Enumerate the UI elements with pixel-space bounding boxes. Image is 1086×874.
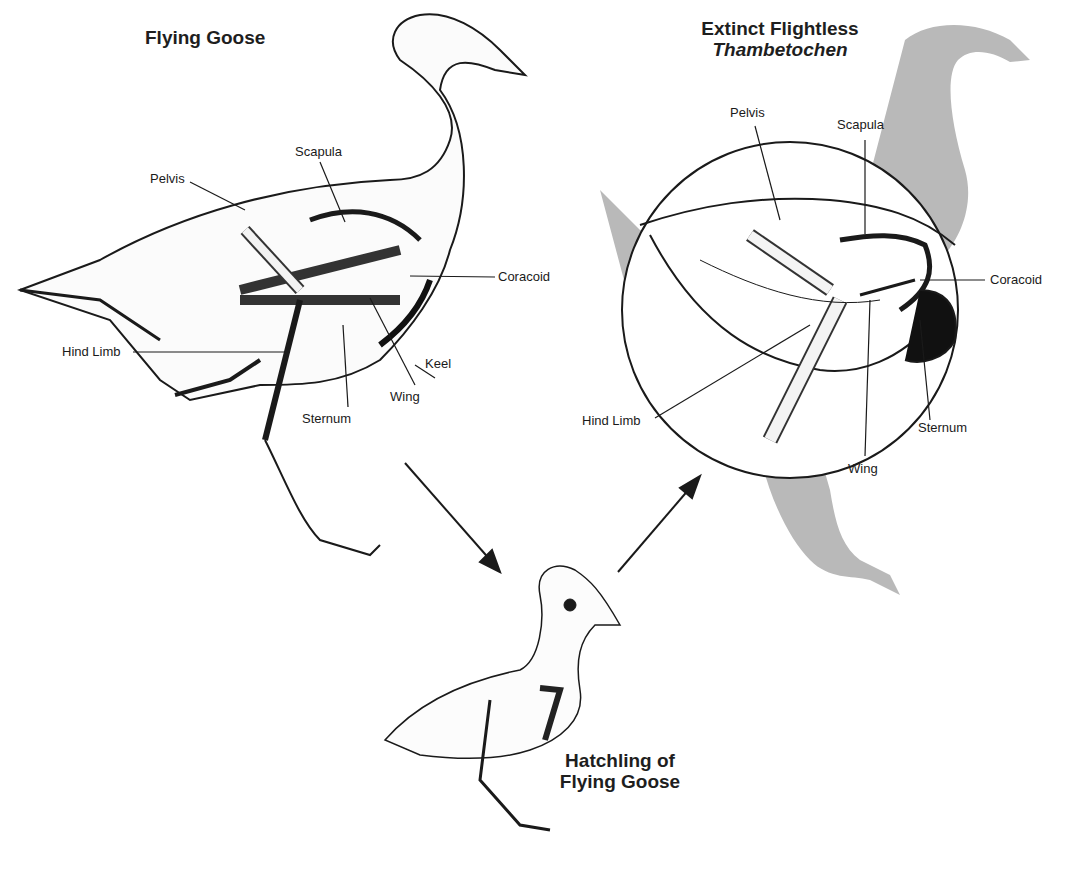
arrow-to-hatchling xyxy=(405,463,492,562)
label-flying-sternum: Sternum xyxy=(302,412,351,426)
label-flying-keel: Keel xyxy=(425,357,451,371)
thambetochen-title-line1: Extinct Flightless xyxy=(701,18,858,39)
label-extinct-scapula: Scapula xyxy=(837,118,884,132)
magnification-circle xyxy=(622,142,958,478)
label-extinct-pelvis: Pelvis xyxy=(730,106,765,120)
diagram-artwork xyxy=(0,0,1086,874)
flying-goose-illustration xyxy=(20,14,525,555)
label-extinct-hind-limb: Hind Limb xyxy=(582,414,641,428)
arrow-head-down-icon xyxy=(480,550,500,572)
arrow-to-thambetochen xyxy=(618,488,690,572)
label-extinct-wing: Wing xyxy=(848,462,878,476)
label-flying-wing: Wing xyxy=(390,390,420,404)
label-extinct-coracoid: Coracoid xyxy=(990,273,1042,287)
label-flying-pelvis: Pelvis xyxy=(150,172,185,186)
label-flying-coracoid: Coracoid xyxy=(498,270,550,284)
arrows xyxy=(405,463,700,572)
thambetochen-title-line2: Thambetochen xyxy=(690,39,870,60)
thambetochen-title: Extinct Flightless Thambetochen xyxy=(690,18,870,60)
hatchling-title: Hatchling of Flying Goose xyxy=(540,750,700,792)
label-flying-scapula: Scapula xyxy=(295,145,342,159)
label-flying-hind-limb: Hind Limb xyxy=(62,345,121,359)
hatchling-title-line1: Hatchling of xyxy=(565,750,675,771)
hatchling-title-line2: Flying Goose xyxy=(560,771,680,792)
label-extinct-sternum: Sternum xyxy=(918,421,967,435)
flying-goose-title: Flying Goose xyxy=(145,27,265,48)
